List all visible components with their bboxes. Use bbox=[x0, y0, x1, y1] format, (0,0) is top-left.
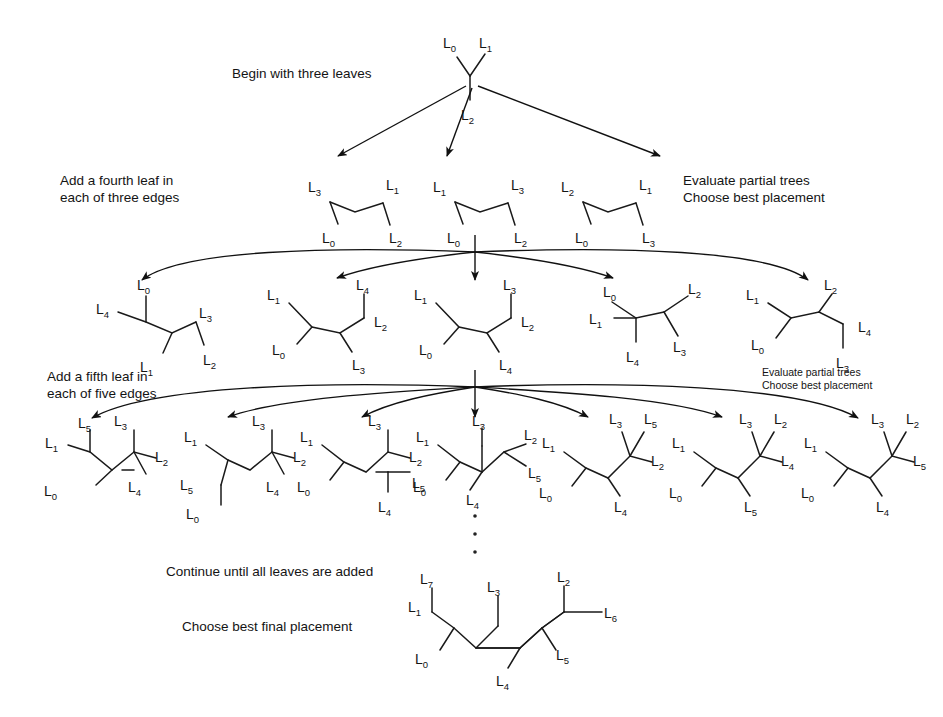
svg-text:L6: L6 bbox=[604, 605, 617, 624]
svg-text:L2: L2 bbox=[561, 179, 574, 198]
svg-text:L5: L5 bbox=[556, 647, 569, 666]
caption-add-fourth: Add a fourth leaf in each of three edges bbox=[60, 172, 179, 206]
svg-text:L3: L3 bbox=[871, 411, 884, 430]
tree-3-leaf: L0 L1 L2 bbox=[443, 35, 492, 126]
caption-continue: Continue until all leaves are added bbox=[166, 563, 373, 580]
svg-text:L0: L0 bbox=[801, 485, 814, 504]
svg-text:L0: L0 bbox=[186, 506, 199, 525]
caption-evaluate-1: Evaluate partial trees Choose best place… bbox=[683, 172, 825, 206]
svg-text:L5: L5 bbox=[644, 411, 657, 430]
tree-4c: L2 L1 L0 L3 bbox=[561, 177, 655, 249]
svg-text:L0: L0 bbox=[539, 485, 552, 504]
svg-text:L3: L3 bbox=[609, 411, 622, 430]
svg-text:L1: L1 bbox=[414, 287, 427, 306]
svg-text:L4: L4 bbox=[499, 357, 512, 376]
svg-text:L1: L1 bbox=[542, 435, 555, 454]
svg-text:L3: L3 bbox=[199, 305, 212, 324]
svg-text:L2: L2 bbox=[203, 352, 216, 371]
svg-text:L0: L0 bbox=[419, 342, 432, 361]
svg-text:L0: L0 bbox=[603, 284, 616, 303]
caption-begin: Begin with three leaves bbox=[232, 65, 372, 82]
svg-text:L4: L4 bbox=[858, 319, 871, 338]
svg-text:L2: L2 bbox=[389, 230, 402, 249]
svg-text:L2: L2 bbox=[651, 453, 664, 472]
svg-text:L2: L2 bbox=[524, 427, 537, 446]
diagram-canvas: Begin with three leaves Add a fourth lea… bbox=[0, 0, 943, 717]
svg-text:L0: L0 bbox=[575, 230, 588, 249]
svg-text:L0: L0 bbox=[669, 485, 682, 504]
tree-5e: L1 L0 L2 L4 L3 bbox=[746, 277, 871, 374]
svg-text:L2: L2 bbox=[293, 449, 306, 468]
vertical-ellipsis bbox=[473, 514, 477, 554]
svg-text:L1: L1 bbox=[267, 287, 280, 306]
svg-text:L0: L0 bbox=[44, 483, 57, 502]
svg-text:L5: L5 bbox=[78, 415, 91, 434]
caption-add-fifth: Add a fifth leaf in each of five edges bbox=[47, 368, 157, 402]
svg-text:L3: L3 bbox=[511, 177, 524, 196]
tree-6a: L5 L3 L1 L2 L0 L4 bbox=[44, 413, 168, 502]
svg-text:L4: L4 bbox=[781, 453, 794, 472]
caption-evaluate-2: Evaluate partial trees Choose best place… bbox=[762, 366, 872, 392]
svg-text:L0: L0 bbox=[297, 479, 310, 498]
tree-5b: L1 L0 L4 L2 L3 bbox=[267, 277, 387, 376]
svg-text:L3: L3 bbox=[487, 579, 500, 598]
svg-text:L1: L1 bbox=[184, 429, 197, 448]
tree-5c: L1 L0 L3 L2 L4 bbox=[414, 277, 534, 376]
svg-text:L0: L0 bbox=[322, 230, 335, 249]
tree-drawing-layer: L0 L1 L2 L3 L1 L0 L2 L1 L3 L0 L2 bbox=[0, 0, 943, 717]
svg-text:L5: L5 bbox=[913, 453, 926, 472]
leaf-label: L1 bbox=[479, 35, 492, 54]
tree-final: L1 L7 L3 L2 L6 L0 L5 L4 bbox=[408, 569, 617, 692]
tree-5a: L0 L4 L1 L3 L2 bbox=[96, 277, 216, 378]
fan-row2-to-row3 bbox=[142, 235, 808, 280]
svg-text:L0: L0 bbox=[413, 479, 426, 498]
svg-text:L2: L2 bbox=[514, 230, 527, 249]
svg-text:L5: L5 bbox=[180, 477, 193, 496]
svg-text:L1: L1 bbox=[433, 179, 446, 198]
svg-text:L0: L0 bbox=[415, 651, 428, 670]
tree-6c: L1 L3 L2 L0 L5 L4 bbox=[297, 413, 425, 518]
svg-text:L5: L5 bbox=[528, 465, 541, 484]
svg-text:L2: L2 bbox=[374, 314, 387, 333]
svg-text:L7: L7 bbox=[420, 571, 433, 590]
svg-text:L1: L1 bbox=[589, 311, 602, 330]
svg-text:L2: L2 bbox=[774, 411, 787, 430]
svg-text:L0: L0 bbox=[751, 337, 764, 356]
svg-text:L3: L3 bbox=[472, 413, 485, 432]
fan-row1-to-row2 bbox=[338, 86, 660, 156]
svg-text:L1: L1 bbox=[416, 429, 429, 448]
svg-text:L4: L4 bbox=[378, 499, 391, 518]
svg-text:L2: L2 bbox=[557, 569, 570, 588]
tree-5d: L0 L1 L4 L2 L3 bbox=[589, 281, 701, 368]
svg-text:L2: L2 bbox=[906, 411, 919, 430]
svg-text:L2: L2 bbox=[521, 314, 534, 333]
svg-text:L3: L3 bbox=[673, 339, 686, 358]
svg-text:L4: L4 bbox=[626, 349, 639, 368]
leaf-label: L0 bbox=[443, 35, 456, 54]
tree-6e: L1 L3 L5 L2 L0 L4 bbox=[539, 411, 664, 518]
tree-6f: L1 L3 L2 L4 L0 L5 bbox=[669, 411, 794, 518]
caption-final: Choose best final placement bbox=[182, 618, 352, 635]
svg-text:L3: L3 bbox=[503, 277, 516, 296]
svg-text:L4: L4 bbox=[128, 479, 141, 498]
tree-4a: L3 L1 L0 L2 bbox=[308, 177, 402, 249]
svg-text:L2: L2 bbox=[688, 281, 701, 300]
svg-text:L3: L3 bbox=[352, 357, 365, 376]
svg-text:L3: L3 bbox=[308, 179, 321, 198]
svg-text:L1: L1 bbox=[300, 429, 313, 448]
svg-text:L2: L2 bbox=[155, 449, 168, 468]
tree-6g: L1 L3 L2 L5 L0 L4 bbox=[801, 411, 926, 518]
svg-text:L5: L5 bbox=[744, 499, 757, 518]
svg-text:L2: L2 bbox=[409, 449, 422, 468]
svg-text:L1: L1 bbox=[639, 177, 652, 196]
svg-text:L1: L1 bbox=[408, 599, 421, 618]
fan-row3-to-row4 bbox=[92, 370, 858, 418]
svg-text:L1: L1 bbox=[746, 287, 759, 306]
svg-text:L0: L0 bbox=[137, 277, 150, 296]
tree-4b: L1 L3 L0 L2 bbox=[433, 177, 527, 249]
leaf-label: L2 bbox=[461, 107, 474, 126]
svg-text:L0: L0 bbox=[447, 230, 460, 249]
svg-text:L3: L3 bbox=[368, 413, 381, 432]
tree-6b: L1 L3 L2 L5 L4 L0 bbox=[180, 413, 306, 525]
svg-text:L3: L3 bbox=[114, 413, 127, 432]
